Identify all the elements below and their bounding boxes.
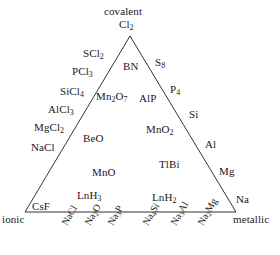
- right-edge-label-na: Na: [236, 194, 249, 205]
- corner-label-covalent: covalent: [104, 6, 142, 17]
- left-edge-label-alcl3: AlCl3: [48, 104, 74, 117]
- interior-label-mn2o7: Mn2O7: [96, 91, 128, 104]
- right-edge-label-al: Al: [205, 139, 216, 150]
- interior-label-mno2: MnO2: [146, 124, 174, 137]
- left-edge-label-sicl4: SiCl4: [60, 86, 84, 99]
- left-edge-label-mgcl2: MgCl2: [34, 122, 64, 135]
- right-edge-label-s8: S8: [155, 57, 165, 70]
- left-edge-label-scl2: SCl2: [83, 48, 104, 61]
- interior-label-bn: BN: [123, 61, 138, 72]
- right-edge-label-si: Si: [189, 109, 198, 120]
- corner-label-ionic: ionic: [2, 214, 25, 225]
- van-arkel-ketelaar-triangle-diagram: covalent Cl2 ionic metallic SCl2 PCl3 Si…: [0, 0, 280, 255]
- interior-label-mno: MnO: [92, 167, 116, 178]
- right-edge-label-mg: Mg: [219, 166, 234, 177]
- vertex-species-cl2: Cl2: [119, 19, 134, 32]
- left-edge-label-csf: CsF: [32, 201, 50, 212]
- corner-label-metallic: metallic: [233, 214, 269, 225]
- interior-label-lnh3: LnH3: [77, 190, 102, 203]
- right-edge-label-p4: P4: [170, 84, 180, 97]
- interior-label-alp: AlP: [139, 93, 156, 104]
- left-edge-label-nacl: NaCl: [31, 142, 55, 153]
- interior-label-tlbi: TlBi: [159, 159, 180, 170]
- interior-label-beo: BeO: [83, 133, 103, 144]
- left-edge-label-pcl3: PCl3: [72, 66, 93, 79]
